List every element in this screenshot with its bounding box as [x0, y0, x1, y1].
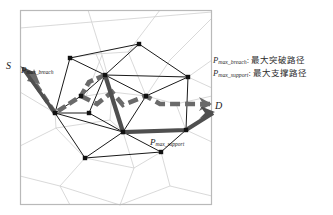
label-max-support: Pmax_support	[150, 131, 184, 149]
label-source: S	[6, 60, 11, 71]
graph-node	[103, 73, 107, 77]
graph-edge	[85, 132, 123, 158]
legend-support-text: 最大支撑路径	[253, 68, 307, 78]
label-destination: D	[215, 100, 222, 111]
legend: Pmax_breach: 最大突破路径 Pmax_support: 最大支撑路径	[213, 55, 333, 81]
graph-node	[144, 94, 148, 98]
label-max-breach-subscript: max_breach	[27, 69, 54, 75]
legend-support-subscript: max_support	[218, 72, 248, 78]
legend-item-support: Pmax_support: 最大支撑路径	[213, 68, 333, 81]
graph-node	[83, 156, 87, 160]
graph-node	[159, 150, 163, 154]
legend-breach-subscript: max_breach	[218, 59, 246, 65]
label-max-breach: Pmax_breach	[21, 59, 53, 77]
graph-node	[53, 111, 57, 115]
legend-breach-text: 最大突破路径	[251, 55, 305, 65]
voronoi-path-diagram	[0, 0, 333, 215]
graph-node	[184, 128, 188, 132]
label-max-support-subscript: max_support	[156, 141, 185, 147]
graph-node	[87, 111, 91, 115]
graph-node	[186, 75, 190, 79]
graph-node	[68, 56, 72, 60]
graph-edge	[85, 152, 161, 158]
graph-edge	[105, 75, 188, 77]
graph-node	[79, 94, 83, 98]
legend-item-breach: Pmax_breach: 最大突破路径	[213, 55, 333, 68]
graph-edge	[105, 44, 139, 75]
graph-node	[137, 42, 141, 46]
graph-node	[121, 130, 125, 134]
